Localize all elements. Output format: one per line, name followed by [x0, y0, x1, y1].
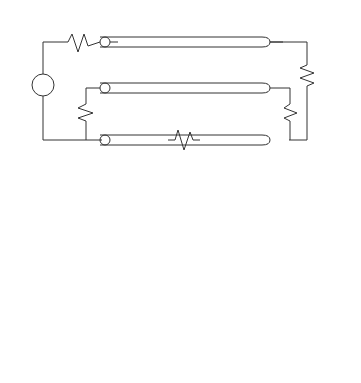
resistor-rfe — [270, 88, 297, 140]
voltage-source-vs — [32, 74, 54, 96]
conductor-reference — [100, 135, 270, 145]
conductor-generator-end — [100, 37, 110, 47]
resistor-rne — [78, 88, 100, 140]
wire-source-bottom — [43, 96, 102, 140]
conductor-generator — [100, 37, 270, 47]
conductor-receptor-end — [100, 83, 110, 93]
resistor-rl — [270, 42, 314, 140]
resistor-r0 — [168, 130, 200, 150]
conductor-receptor — [100, 83, 270, 93]
resistor-rs — [43, 34, 100, 52]
figure-drawing — [0, 0, 361, 383]
